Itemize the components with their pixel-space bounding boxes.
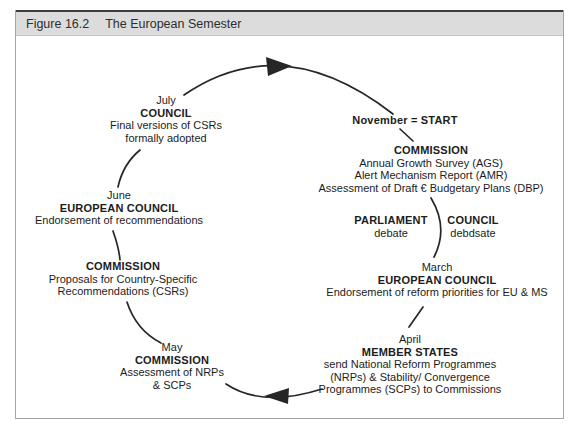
figure-title: The European Semester: [105, 17, 241, 31]
node-april-line: send National Reform Programmes: [319, 358, 502, 371]
node-november-start: November = START: [352, 114, 457, 127]
node-july-line: formally adopted: [110, 132, 222, 145]
node-commission-csr: COMMISSION Proposals for Country-Specifi…: [49, 260, 198, 298]
node-may-month: May: [120, 341, 224, 354]
node-parliament-actor: PARLIAMENT: [354, 214, 427, 227]
node-council-debate-line: debdsate: [447, 227, 499, 240]
node-commission-autumn-line: Assessment of Draft € Budgetary Plans (D…: [319, 182, 544, 195]
node-june-month: June: [35, 189, 203, 202]
node-june-european-council: June EUROPEAN COUNCIL Endorsement of rec…: [35, 189, 203, 227]
node-march-actor: EUROPEAN COUNCIL: [326, 274, 547, 287]
node-commission-csr-line: Proposals for Country-Specific: [49, 273, 198, 286]
node-commission-csr-actor: COMMISSION: [49, 260, 198, 273]
node-may-line: & SCPs: [120, 379, 224, 392]
figure-16-2: Figure 16.2 The European Semester July C…: [0, 0, 577, 435]
node-march-month: March: [326, 261, 547, 274]
node-march-european-council: March EUROPEAN COUNCIL Endorsement of re…: [326, 261, 547, 299]
node-july-actor: COUNCIL: [110, 107, 222, 120]
node-june-line: Endorsement of recommendations: [35, 214, 203, 227]
node-parliament-line: debate: [354, 227, 427, 240]
node-may-commission: May COMMISSION Assessment of NRPs & SCPs: [120, 341, 224, 391]
node-council-debate-actor: COUNCIL: [447, 214, 499, 227]
figure-title-bar: Figure 16.2 The European Semester: [16, 10, 563, 36]
node-april-actor: MEMBER STATES: [319, 346, 502, 359]
figure-number: Figure 16.2: [26, 17, 89, 31]
node-april-line: (NRPs) & Stability/ Convergence: [319, 371, 502, 384]
node-april-line: Programmes (SCPs) to Commissions: [319, 383, 502, 396]
node-july-council: July COUNCIL Final versions of CSRs form…: [110, 94, 222, 144]
node-june-actor: EUROPEAN COUNCIL: [35, 202, 203, 215]
node-commission-autumn-actor: COMMISSION: [319, 144, 544, 157]
node-july-month: July: [110, 94, 222, 107]
figure-frame: Figure 16.2 The European Semester July C…: [15, 10, 564, 419]
node-council-debate: COUNCIL debdsate: [447, 214, 499, 239]
node-commission-autumn-line: Alert Mechanism Report (AMR): [319, 169, 544, 182]
node-april-month: April: [319, 333, 502, 346]
node-parliament-debate: PARLIAMENT debate: [354, 214, 427, 239]
node-commission-autumn: COMMISSION Annual Growth Survey (AGS) Al…: [319, 144, 544, 194]
node-april-member-states: April MEMBER STATES send National Reform…: [319, 333, 502, 396]
node-may-line: Assessment of NRPs: [120, 366, 224, 379]
node-july-line: Final versions of CSRs: [110, 119, 222, 132]
node-commission-autumn-line: Annual Growth Survey (AGS): [319, 157, 544, 170]
node-march-line: Endorsement of reform priorities for EU …: [326, 286, 547, 299]
node-may-actor: COMMISSION: [120, 354, 224, 367]
node-november-label: November = START: [352, 114, 457, 127]
node-commission-csr-line: Recommendations (CSRs): [49, 285, 198, 298]
